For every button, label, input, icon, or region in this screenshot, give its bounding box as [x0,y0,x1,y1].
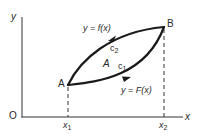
x2-subscript: 2 [164,124,168,131]
c2-subscript: 2 [115,47,119,54]
lower-curve-equation: y = F(x) [121,86,152,95]
c1-subscript: 1 [123,65,127,72]
lower-curve-F [68,27,164,85]
y-axis-label: y [11,12,16,22]
lower-curve-arrow-icon [122,77,131,83]
upper-curve-equation: y = f(x) [83,24,111,33]
region-label: A [103,59,110,69]
x2-tick-label: x2 [159,121,167,131]
point-b-label: B [167,19,174,29]
x-axis-label: x [185,112,190,122]
curve-c1-label: c1 [118,62,126,72]
curve-c2-label: c2 [110,44,118,54]
point-a-label: A [58,79,65,89]
x1-subscript: 1 [68,124,72,131]
origin-label: O [9,111,17,121]
x1-tick-label: x1 [63,121,71,131]
